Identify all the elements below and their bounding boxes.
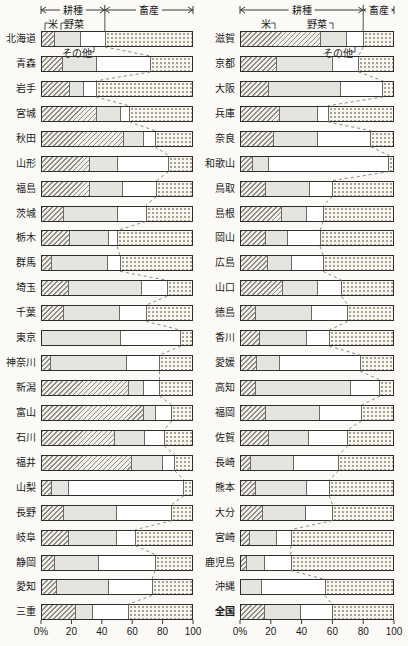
- prefecture-label: 栃木: [0, 232, 36, 244]
- segment-rice: [42, 57, 62, 71]
- axis-tick-label: 40: [296, 626, 308, 637]
- stacked-bar: [41, 106, 193, 122]
- segment-livestock: [159, 381, 192, 395]
- segment-livestock: [174, 456, 192, 470]
- segment-rice: [42, 406, 143, 420]
- segment-livestock: [135, 531, 192, 545]
- segment-others: [308, 431, 348, 445]
- prefecture-label: 埼玉: [0, 282, 36, 294]
- stacked-bar: [41, 181, 193, 197]
- chart-overlay: 耕種畜産米野菜その他0%20406080100: [0, 0, 204, 646]
- prefecture-label: 鹿児島: [204, 557, 235, 569]
- stacked-bar: [240, 405, 394, 421]
- segment-livestock: [328, 107, 393, 121]
- segment-others: [92, 605, 128, 619]
- prefecture-label: 静岡: [0, 557, 36, 569]
- prefecture-label: 茨城: [0, 208, 36, 220]
- segment-rice: [42, 182, 89, 196]
- segment-others: [293, 456, 339, 470]
- prefecture-label: 大阪: [204, 83, 235, 95]
- segment-livestock: [128, 605, 193, 619]
- segment-vegetables: [268, 82, 339, 96]
- segment-others: [332, 57, 358, 71]
- stacked-bar: [41, 505, 193, 521]
- segment-vegetables: [51, 481, 68, 495]
- segment-vegetables: [265, 406, 318, 420]
- segment-livestock: [320, 231, 393, 245]
- segment-others: [83, 82, 97, 96]
- crops-group-label: 耕種: [63, 4, 83, 16]
- prefecture-label: 岐阜: [0, 532, 36, 544]
- stacked-bar: [240, 230, 394, 246]
- segment-others: [117, 157, 168, 171]
- segment-vegetables: [131, 456, 163, 470]
- prefecture-label: 宮崎: [204, 532, 235, 544]
- prefecture-label: 富山: [0, 407, 36, 419]
- segment-livestock: [146, 306, 193, 320]
- segment-vegetables: [68, 531, 116, 545]
- segment-vegetables: [279, 107, 317, 121]
- prefecture-label: 岡山: [204, 232, 235, 244]
- segment-vegetables: [50, 356, 127, 370]
- segment-vegetables: [282, 281, 317, 295]
- segment-others: [311, 306, 347, 320]
- stacked-bar: [41, 604, 193, 620]
- stacked-bar: [41, 579, 193, 595]
- segment-vegetables: [69, 82, 83, 96]
- segment-rice: [241, 32, 320, 46]
- segment-vegetables: [267, 256, 291, 270]
- segment-rice: [241, 506, 262, 520]
- segment-others: [319, 406, 362, 420]
- prefecture-label: 島根: [204, 208, 235, 220]
- prefecture-label: 青森: [0, 58, 36, 70]
- segment-vegetables: [250, 456, 293, 470]
- segment-others: [306, 207, 323, 221]
- segment-livestock: [171, 406, 192, 420]
- segment-livestock: [363, 32, 393, 46]
- segment-others: [350, 381, 379, 395]
- segment-vegetables: [89, 157, 118, 171]
- prefecture-label: 山形: [0, 158, 36, 170]
- segment-livestock: [291, 531, 393, 545]
- segment-rice: [241, 207, 281, 221]
- stacked-bar: [240, 106, 394, 122]
- prefecture-label: 奈良: [204, 133, 235, 145]
- segment-livestock: [382, 82, 393, 96]
- segment-livestock: [180, 331, 192, 345]
- stacked-bar: [240, 206, 394, 222]
- segment-rice: [241, 256, 267, 270]
- segment-others: [264, 556, 291, 570]
- segment-vegetables: [114, 431, 144, 445]
- segment-livestock: [361, 406, 393, 420]
- segment-others: [279, 356, 360, 370]
- segment-vegetables: [273, 132, 317, 146]
- segment-others: [122, 182, 157, 196]
- segment-vegetables: [265, 231, 286, 245]
- stacked-bar: [41, 380, 193, 396]
- axis-tick-label: 20: [265, 626, 277, 637]
- segment-livestock: [338, 456, 393, 470]
- segment-vegetables: [68, 281, 142, 295]
- stacked-bar: [41, 305, 193, 321]
- segment-vegetables: [320, 32, 346, 46]
- segment-rice: [241, 605, 264, 619]
- prefecture-label: 福島: [0, 183, 36, 195]
- stacked-bar: [41, 81, 193, 97]
- segment-rice: [42, 32, 54, 46]
- segment-rice: [42, 281, 68, 295]
- stacked-bar: [240, 555, 394, 571]
- stacked-bar: [41, 455, 193, 471]
- prefecture-label: 東京: [0, 332, 36, 344]
- segment-others: [141, 281, 167, 295]
- segment-rice: [241, 356, 256, 370]
- prefecture-label: 宮城: [0, 108, 36, 120]
- segment-rice: [42, 531, 68, 545]
- segment-livestock: [150, 57, 192, 71]
- segment-vegetables: [56, 580, 109, 594]
- stacked-bar: [240, 81, 394, 97]
- stacked-bar: [240, 280, 394, 296]
- livestock-group-label: 畜産: [369, 4, 389, 16]
- stacked-bar: [240, 604, 394, 620]
- prefecture-label: 福岡: [204, 407, 235, 419]
- stacked-bar: [240, 31, 394, 47]
